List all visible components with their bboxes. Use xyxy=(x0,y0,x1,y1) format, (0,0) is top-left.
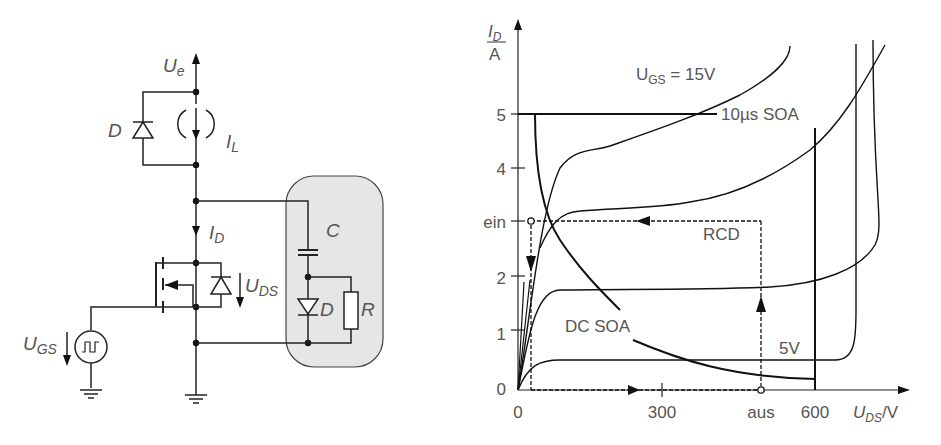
y-tick-4: 4 xyxy=(497,160,506,179)
freewheel-diode-icon xyxy=(133,122,153,138)
marker-aus xyxy=(758,387,764,393)
drain-current-arrow-icon xyxy=(192,226,200,236)
y-axis-arrow-icon xyxy=(514,19,522,30)
mosfet-icon xyxy=(91,257,196,330)
curve-ugs-15v xyxy=(518,46,790,390)
ugs-label: UGS xyxy=(23,333,58,357)
snubber-region xyxy=(286,176,383,367)
annotation-5v: 5V xyxy=(779,339,800,358)
snubber-resistor-label: R xyxy=(361,299,375,320)
marker-ein xyxy=(528,218,534,224)
ugs-arrow-icon xyxy=(63,355,71,366)
y-tick-ein: ein xyxy=(483,213,506,232)
y-axis-title-unit: A xyxy=(489,45,501,64)
y-tick-2: 2 xyxy=(497,269,506,288)
x-tick-0: 0 xyxy=(513,403,522,422)
trajectory-arrow-right-icon xyxy=(628,385,640,395)
snubber-capacitor-label: C xyxy=(326,220,340,241)
soa-dc-curve xyxy=(535,114,620,310)
load-current-label: IL xyxy=(226,131,239,155)
resistor-icon xyxy=(344,292,358,329)
freewheel-diode-label: D xyxy=(108,120,122,141)
annotation-dc-soa: DC SOA xyxy=(565,317,631,336)
y-tick-0: 0 xyxy=(497,380,506,399)
body-diode-icon xyxy=(211,277,231,294)
uds-arrow-icon xyxy=(236,297,244,308)
x-tick-300: 300 xyxy=(648,403,676,422)
x-axis-arrow-icon xyxy=(898,386,910,394)
supply-arrow-icon xyxy=(192,53,200,64)
pulse-source-icon xyxy=(75,331,107,363)
trajectory-arrow-up-icon xyxy=(756,296,766,312)
snubber-diode-label: D xyxy=(320,299,334,320)
ground-icon xyxy=(185,395,207,403)
x-axis-title: UDS/V xyxy=(853,403,899,425)
uds-label: UDS xyxy=(245,275,279,299)
trajectory-arrow-left-icon xyxy=(636,216,650,226)
annotation-10us-soa: 10µs SOA xyxy=(721,105,799,124)
annotation-ugs-15v: UGS = 15V xyxy=(636,65,716,87)
annotation-rcd: RCD xyxy=(703,225,740,244)
curve-ugs-mid2 xyxy=(518,40,879,390)
y-axis-title-numerator: ID xyxy=(488,22,502,44)
y-tick-1: 1 xyxy=(497,325,506,344)
trajectory-arrow-down-icon xyxy=(526,256,536,272)
x-tick-600: 600 xyxy=(801,403,829,422)
y-tick-5: 5 xyxy=(497,106,506,125)
supply-label: Ue xyxy=(163,55,185,79)
ground-icon xyxy=(80,390,102,398)
curve-ugs-5v xyxy=(518,44,856,390)
figure: Ue D IL ID UDS UGS C D R xyxy=(0,0,941,445)
x-tick-aus: aus xyxy=(747,403,774,422)
soa-chart: 0 1 2 ein 4 5 0 300 aus 600 ID A UDS/V U… xyxy=(483,19,910,425)
drain-current-label: ID xyxy=(209,222,224,246)
